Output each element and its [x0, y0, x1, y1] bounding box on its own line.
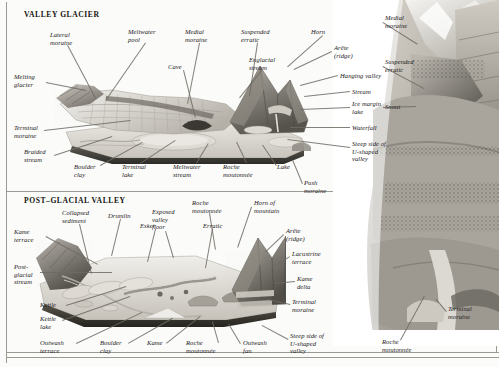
callout-label-photograph-4: Roche moutonnée	[382, 338, 411, 353]
callout-label-valley_glacier-13: Melting glacier	[14, 73, 35, 88]
callout-label-valley_glacier-4: Horn	[311, 28, 325, 36]
callout-label-post_glacial-19: Roche moutonnée	[186, 339, 215, 354]
callout-label-valley_glacier-0: Lateral moraine	[50, 31, 72, 46]
callout-label-valley_glacier-20: Lake	[277, 163, 290, 171]
callout-label-post_glacial-16: Outwash terrace	[40, 339, 64, 354]
callout-label-valley_glacier-10: Ice margin lake	[352, 100, 381, 115]
callout-label-photograph-2: Snout	[385, 103, 400, 111]
callout-label-post_glacial-18: Kame	[147, 339, 163, 347]
callout-label-valley_glacier-14: Terminal moraine	[14, 124, 38, 139]
callout-label-valley_glacier-12: Steep side of U-shaped valley	[352, 140, 386, 163]
callout-label-post_glacial-6: Horn of mountain	[254, 199, 279, 214]
leader-line-post_glacial-13	[40, 272, 112, 273]
callout-label-valley_glacier-11: Waterfall	[352, 124, 377, 132]
callout-label-post_glacial-5: Roche moutonnée	[192, 199, 221, 214]
callout-label-photograph-3: Terminal moraine	[448, 305, 472, 320]
callout-label-post_glacial-1: Drumlin	[108, 212, 131, 220]
callout-label-valley_glacier-3: Suspended erratic	[241, 28, 270, 43]
callout-label-post_glacial-8: Lacustrine terrace	[292, 250, 321, 265]
callout-label-valley_glacier-9: Stream	[352, 88, 371, 96]
callout-label-valley_glacier-21: Push moraine	[304, 179, 326, 194]
callout-label-valley_glacier-18: Meltwater stream	[173, 163, 201, 178]
callout-label-post_glacial-4: Erratic	[203, 222, 222, 230]
callout-label-post_glacial-15: Kettle lake	[40, 315, 56, 330]
callout-label-photograph-1: Suspended erratic	[385, 58, 414, 73]
panel-divider-bottom-2	[6, 357, 499, 358]
callout-label-post_glacial-13: Post- glacial stream	[14, 263, 33, 286]
callout-label-valley_glacier-6: Englacial stream	[249, 56, 275, 71]
callout-label-post_glacial-0: Collapsed sediment	[62, 209, 89, 224]
callout-label-post_glacial-10: Terminal moraine	[292, 298, 316, 313]
photograph-glacier-snout	[333, 0, 499, 346]
leader-line-valley_glacier-11	[290, 127, 350, 128]
callout-label-post_glacial-14: Kettle	[40, 301, 56, 309]
callout-label-photograph-0: Medial moraine	[385, 14, 407, 29]
callout-label-post_glacial-11: Steep side of U-shaped valley	[290, 332, 324, 355]
callout-label-valley_glacier-19: Roche moutonnée	[223, 163, 252, 178]
callout-label-post_glacial-20: Outwash fan	[243, 339, 267, 354]
callout-label-valley_glacier-5: Cave	[168, 63, 182, 71]
callout-label-valley_glacier-17: Terminal lake	[122, 163, 146, 178]
panel-divider-middle	[6, 191, 333, 192]
callout-label-post_glacial-12: Kame terrace	[14, 228, 33, 243]
diagram-page: VALLEY GLACIER POST–GLACIAL VALLEY	[0, 0, 499, 367]
callout-label-post_glacial-7: Arête (ridge)	[286, 227, 305, 242]
illustration-post-glacial-valley	[36, 232, 286, 337]
callout-label-valley_glacier-2: Medial moraine	[185, 28, 207, 43]
callout-label-post_glacial-17: Boulder clay	[100, 339, 122, 354]
callout-label-valley_glacier-7: Arête (ridge)	[334, 44, 353, 59]
page-border-left	[6, 2, 7, 363]
callout-label-valley_glacier-16: Boulder clay	[74, 163, 96, 178]
heading-valley-glacier: VALLEY GLACIER	[24, 10, 99, 19]
callout-label-valley_glacier-15: Braided stream	[24, 148, 46, 163]
callout-label-post_glacial-3: Exposed valley floor	[152, 208, 175, 231]
heading-post-glacial-valley: POST–GLACIAL VALLEY	[24, 196, 126, 205]
callout-label-post_glacial-9: Kame delta	[297, 275, 313, 290]
callout-label-valley_glacier-8: Hanging valley	[340, 72, 381, 80]
callout-label-valley_glacier-1: Meltwater pool	[128, 28, 156, 43]
